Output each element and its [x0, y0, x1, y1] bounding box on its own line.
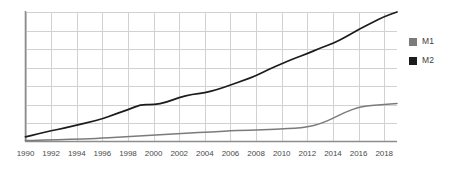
chart-plot-area [0, 0, 454, 172]
x-tick-label: 2000 [145, 150, 163, 158]
x-tick-label: 1996 [94, 150, 112, 158]
legend-swatch-icon [409, 57, 417, 65]
chart-legend: M1 M2 [409, 32, 454, 70]
x-tick-label: 1994 [68, 150, 86, 158]
x-tick-label: 2014 [324, 150, 342, 158]
horizontal-gridlines [26, 13, 398, 124]
x-tick-label: 2006 [222, 150, 240, 158]
x-tick-label: 1992 [42, 150, 60, 158]
x-tick-label: 2016 [350, 150, 368, 158]
legend-item-m1[interactable]: M1 [409, 32, 454, 51]
x-tick-label: 1990 [17, 150, 35, 158]
line-chart-widget: 1990199219941996199820002002200420062008… [0, 0, 454, 172]
legend-swatch-icon [409, 38, 417, 46]
x-tick-label: 2008 [247, 150, 265, 158]
x-tick-label: 2004 [196, 150, 214, 158]
legend-item-label: M1 [422, 37, 434, 46]
x-tick-label: 2010 [273, 150, 291, 158]
legend-item-label: M2 [422, 56, 434, 65]
x-tick-label: 2018 [375, 150, 393, 158]
legend-item-m2[interactable]: M2 [409, 51, 454, 70]
x-tick-label: 2002 [170, 150, 188, 158]
series-line-m1 [26, 104, 398, 141]
series-line-m2 [26, 12, 398, 137]
x-tick-label: 1998 [119, 150, 137, 158]
x-tick-label: 2012 [299, 150, 317, 158]
